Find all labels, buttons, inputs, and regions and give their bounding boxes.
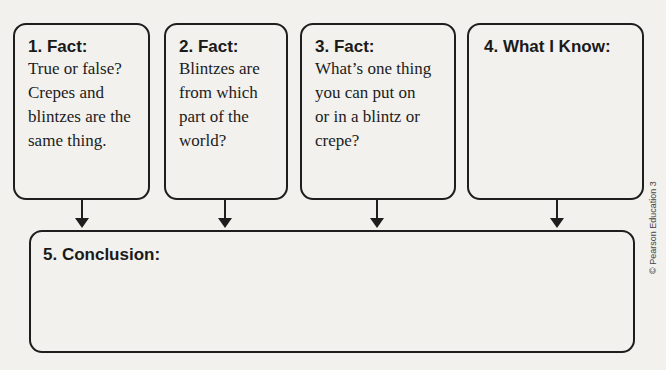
conclusion-title: 5. Conclusion:	[43, 245, 633, 265]
graphic-organizer-page: 1. Fact: True or false? Crepes and blint…	[0, 0, 666, 370]
conclusion-box[interactable]: 5. Conclusion:	[29, 230, 635, 353]
copyright-text: © Pearson Education 3	[648, 181, 658, 274]
arrow-down-icon	[370, 200, 384, 228]
fact-box-1-line-3: blintzes are the	[28, 105, 138, 129]
fact-box-1-title: 1. Fact:	[28, 37, 138, 57]
fact-box-1[interactable]: 1. Fact: True or false? Crepes and blint…	[13, 23, 150, 200]
what-i-know-title: 4. What I Know:	[484, 37, 632, 57]
fact-box-2[interactable]: 2. Fact: Blintzes are from which part of…	[164, 23, 288, 200]
fact-box-3-line-4: crepe?	[315, 129, 444, 153]
fact-box-3-line-2: you can put on	[315, 81, 444, 105]
fact-box-2-line-3: part of the	[179, 105, 276, 129]
fact-box-2-line-1: Blintzes are	[179, 57, 276, 81]
fact-box-3-title: 3. Fact:	[315, 37, 444, 57]
fact-box-2-line-2: from which	[179, 81, 276, 105]
arrow-down-icon	[218, 200, 232, 228]
arrow-down-icon	[550, 200, 564, 228]
fact-box-2-title: 2. Fact:	[179, 37, 276, 57]
fact-box-3-line-3: or in a blintz or	[315, 105, 444, 129]
fact-box-1-line-1: True or false?	[28, 57, 138, 81]
fact-box-3[interactable]: 3. Fact: What’s one thing you can put on…	[300, 23, 456, 200]
what-i-know-box[interactable]: 4. What I Know:	[467, 23, 644, 200]
fact-box-1-line-2: Crepes and	[28, 81, 138, 105]
fact-box-2-line-4: world?	[179, 129, 276, 153]
fact-box-3-line-1: What’s one thing	[315, 57, 444, 81]
arrow-down-icon	[75, 200, 89, 228]
fact-box-1-line-4: same thing.	[28, 129, 138, 153]
